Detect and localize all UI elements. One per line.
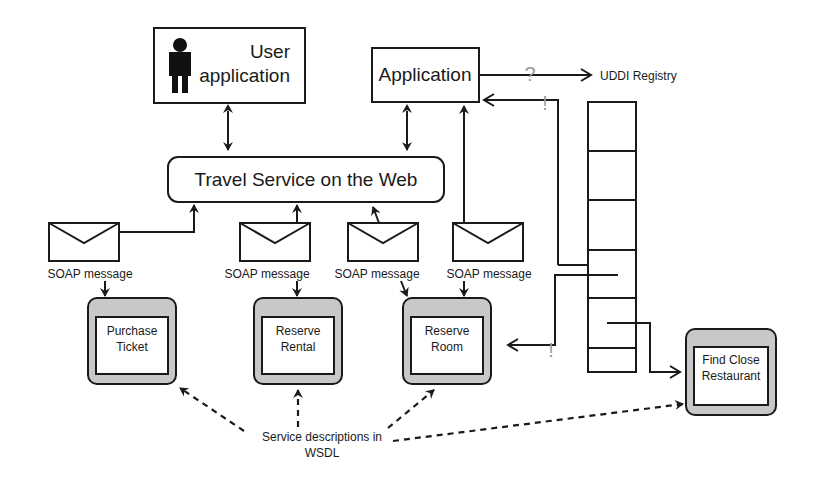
travel-service-label: Travel Service on the Web [195,169,418,190]
soap-message-label: SOAP message [224,267,309,281]
wsdl-note-line-2: WSDL [305,446,340,460]
wsdl-to-restaurant-arrow [393,404,683,441]
user-application-label-1: User [250,41,291,62]
soap-message-label: SOAP message [47,267,132,281]
uddi-registry-stack [588,102,636,372]
application-label: Application [379,64,472,85]
service-reserve-room: Reserve Room [403,298,491,384]
svg-text:Reserve: Reserve [425,324,470,338]
travel-service-box: Travel Service on the Web [168,157,444,202]
soap-message-4: SOAP message [446,223,531,281]
query-mark: ? [524,63,535,85]
application-box: Application [372,48,479,102]
web-services-diagram: User application Application ? UDDI Regi… [0,0,815,482]
service-find-close-restaurant: Find Close Restaurant [686,329,776,415]
svg-text:Reserve: Reserve [276,324,321,338]
service-reserve-rental: Reserve Rental [254,298,342,384]
svg-text:Purchase: Purchase [107,324,158,338]
soap-message-label: SOAP message [446,267,531,281]
service-purchase-ticket: Purchase Ticket [88,298,176,384]
svg-text:Ticket: Ticket [116,340,148,354]
soap-message-2: SOAP message [224,223,310,281]
svg-text:Restaurant: Restaurant [702,369,761,383]
soap-message-3: SOAP message [334,223,419,281]
soap-message-label: SOAP message [334,267,419,281]
svg-text:Rental: Rental [281,340,316,354]
wsdl-to-purchase-arrow [180,388,244,431]
user-application-label-2: application [199,65,290,86]
uddi-registry-label: UDDI Registry [600,69,677,83]
wsdl-to-room-arrow [388,390,434,428]
wsdl-note: Service descriptions in WSDL [262,430,382,460]
registry-reply-mark: ! [548,339,554,361]
reply-mark: ! [542,92,548,114]
wsdl-note-line-1: Service descriptions in [262,430,382,444]
user-application-box: User application [154,28,305,103]
svg-text:Find Close: Find Close [702,353,760,367]
svg-text:Room: Room [431,340,463,354]
